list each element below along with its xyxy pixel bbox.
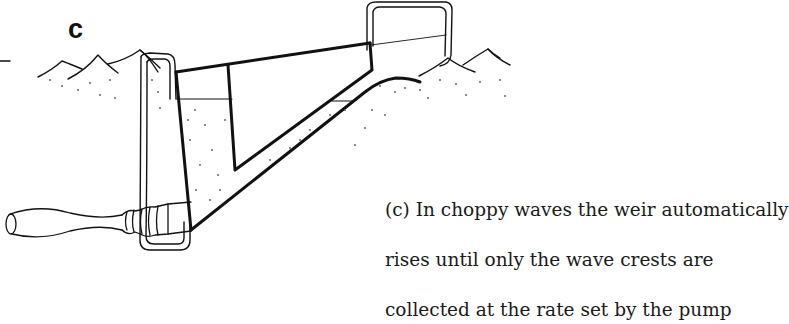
figure-caption: (c) In choppy waves the weir automatical… [385, 172, 785, 324]
suction-hose [6, 209, 122, 237]
threaded-fitting [122, 202, 191, 236]
float-box-top [367, 2, 452, 66]
water-waves-right [419, 49, 510, 76]
weir-body [176, 43, 420, 230]
caption-line-1: (c) In choppy waves the weir automatical… [385, 197, 785, 222]
caption-line-3: collected at the rate set by the pump [385, 297, 785, 322]
caption-line-2: rises until only the wave crests are [385, 247, 785, 272]
water-waves-left [38, 50, 160, 79]
